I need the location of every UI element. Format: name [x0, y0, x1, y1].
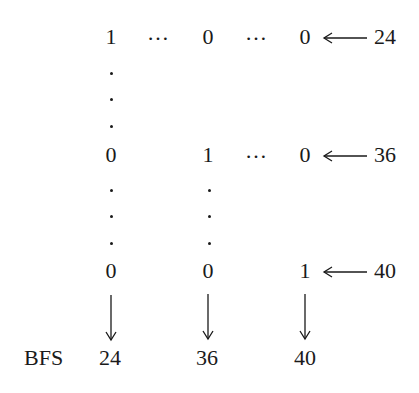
down-arrow-icon: [300, 294, 310, 339]
left-arrow-icon: [324, 151, 367, 161]
bfs-label: BFS: [24, 347, 63, 369]
arrows-layer: [0, 0, 419, 393]
bfs-value-2: 36: [196, 347, 218, 369]
down-arrow-icon: [106, 295, 116, 340]
bfs-value-1: 24: [99, 347, 121, 369]
left-arrow-icon: [324, 267, 367, 277]
bfs-value-3: 40: [294, 347, 316, 369]
left-arrow-icon: [324, 33, 367, 43]
down-arrow-icon: [203, 294, 213, 339]
